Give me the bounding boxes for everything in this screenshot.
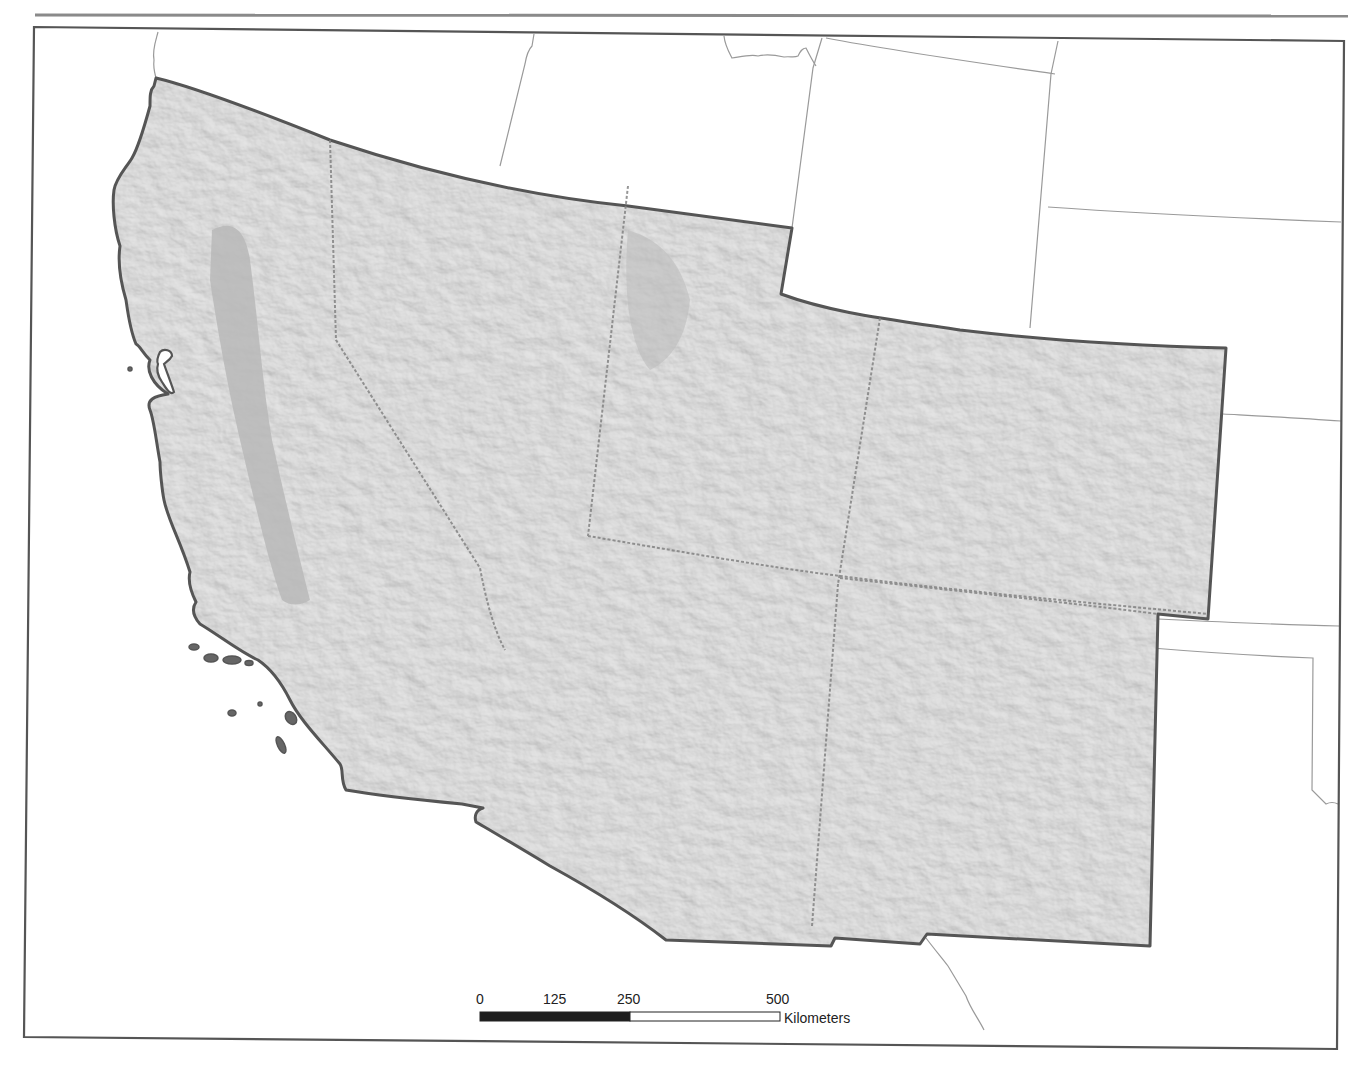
rio-grande [926,938,984,1030]
kansas-north-border [1223,414,1341,421]
oregon-idaho-border [153,32,158,78]
scale-unit-label: Kilometers [784,1010,850,1026]
scale-segment-1 [630,1012,780,1021]
scale-tick-125: 125 [543,991,567,1007]
wyoming-east-border [1030,41,1058,328]
page-top-rule [35,15,1348,16]
scale-tick-250: 250 [617,991,641,1007]
oklahoma-panhandle-border [1152,648,1338,804]
nebraska-north-border [1048,207,1341,222]
island [258,702,262,706]
shaded-region [100,70,1240,970]
island [223,656,241,664]
scale-tick-0: 0 [476,991,484,1007]
island [204,654,218,662]
island [245,661,253,666]
island [228,710,236,716]
scale-tick-500: 500 [766,991,790,1007]
scale-segment-0 [480,1012,630,1021]
montana-wyoming-border [826,38,1055,74]
scale-bar: 0 125 250 500 Kilometers [476,991,850,1026]
idaho-west-border [500,34,534,166]
island [189,644,199,650]
island [274,735,288,754]
map-canvas: 0 125 250 500 Kilometers [0,0,1372,1079]
idaho-montana-border [724,36,816,66]
island [128,367,132,371]
oklahoma-north-border [1158,619,1339,626]
idaho-wyoming-border [792,38,822,228]
